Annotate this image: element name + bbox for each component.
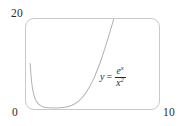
y-axis-max-label: 20: [11, 8, 23, 20]
equation-fraction: ex x2: [115, 66, 126, 89]
fraction-numerator: ex: [116, 66, 125, 76]
figure-container: 20 0 10 y = ex x2: [0, 0, 181, 126]
numerator-exponent: x: [121, 64, 124, 71]
x-axis-max-label: 10: [163, 107, 175, 119]
denominator-exponent: 2: [121, 76, 124, 83]
equation-lhs: y: [100, 72, 104, 82]
curve-equation-annotation: y = ex x2: [100, 66, 126, 89]
origin-label: 0: [12, 107, 18, 119]
plot-frame: [25, 18, 160, 110]
fraction-denominator: x2: [115, 78, 124, 88]
equation-equals-sign: =: [106, 72, 112, 82]
